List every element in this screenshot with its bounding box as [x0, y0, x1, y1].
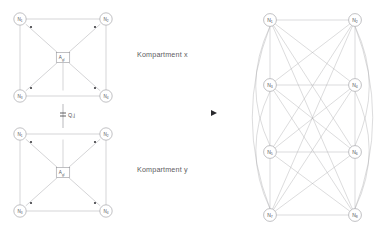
flow-marker-dot-x-3 — [94, 87, 96, 89]
exchange-flow: Q,j — [60, 104, 75, 128]
flow-marker-dot-x-1 — [94, 26, 96, 28]
graph-node-x-n3: N3 — [14, 90, 26, 102]
k8-edge-layer — [252, 20, 372, 215]
compartment-spoke-x-0 — [26, 24, 58, 52]
compartment-spoke-y-1 — [69, 139, 101, 167]
kompartment-x-label: Kompartment x — [137, 50, 188, 59]
flow-marker-dot-x-2 — [30, 87, 32, 89]
graph-node-x-n2: N2 — [100, 13, 112, 25]
kompartment-y-label: Kompartment y — [137, 165, 188, 174]
graph-node-y-n2: N2 — [100, 128, 112, 140]
graph-node-y-n3: N3 — [14, 205, 26, 217]
compartment-spoke-x-2 — [26, 63, 58, 91]
graph-node-g-n6: N6 — [349, 146, 362, 159]
graph-node-y-n4: N4 — [100, 205, 112, 217]
flow-marker-dot-y-2 — [30, 202, 32, 204]
transform-arrow-triangle — [211, 110, 217, 116]
graph-node-g-n4: N4 — [349, 79, 362, 92]
flow-marker-dot-y-3 — [94, 202, 96, 204]
graph-node-g-n1: N1 — [264, 14, 277, 27]
transform-arrow — [211, 110, 217, 116]
graph-node-g-n5: N5 — [264, 146, 277, 159]
exchange-flow-label: Q,j — [68, 112, 75, 118]
compartment-spoke-x-1 — [69, 24, 101, 52]
diagram-canvas: AglN1N2N3N4AglN1N2N3N4Q,jN1N2N3N4N5N6N7N… — [0, 0, 391, 233]
compartment-spoke-y-2 — [26, 178, 58, 206]
k8-edge-5 — [252, 26, 270, 208]
complete-graph-k8: N1N2N3N4N5N6N7N8 — [252, 14, 372, 222]
flow-marker-dot-x-0 — [30, 26, 32, 28]
k8-edge-12 — [355, 26, 373, 208]
compartment-spoke-y-3 — [69, 178, 101, 206]
compartment-spoke-x-3 — [69, 63, 101, 91]
graph-node-y-n1: N1 — [14, 128, 26, 140]
flow-marker-dot-y-1 — [94, 141, 96, 143]
flow-marker-dot-y-0 — [30, 141, 32, 143]
graph-node-g-n2: N2 — [349, 14, 362, 27]
graph-node-x-n4: N4 — [100, 90, 112, 102]
graph-node-g-n8: N8 — [349, 209, 362, 222]
compartment-x: AglN1N2N3N4 — [14, 13, 112, 102]
compartment-spoke-y-0 — [26, 139, 58, 167]
graph-node-g-n3: N3 — [264, 79, 277, 92]
graph-node-x-n1: N1 — [14, 13, 26, 25]
compartment-y: AglN1N2N3N4 — [14, 128, 112, 217]
graph-node-g-n7: N7 — [264, 209, 277, 222]
